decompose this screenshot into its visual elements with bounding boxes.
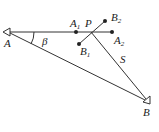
angle-beta-arc — [31, 32, 34, 44]
label-a2: A2 — [113, 34, 125, 48]
point-b2-dot — [103, 19, 107, 23]
label-b2: B2 — [111, 11, 122, 25]
label-beta: β — [41, 35, 48, 47]
label-a: A — [3, 37, 11, 49]
triangulation-diagram: A B P β S A1 A2 B1 B2 — [0, 0, 159, 132]
label-p: P — [84, 17, 92, 29]
label-b1: B1 — [80, 45, 90, 59]
label-s: S — [120, 53, 126, 65]
station-a-triangle-icon — [3, 28, 10, 36]
label-a1: A1 — [69, 17, 80, 31]
label-b: B — [143, 106, 150, 118]
